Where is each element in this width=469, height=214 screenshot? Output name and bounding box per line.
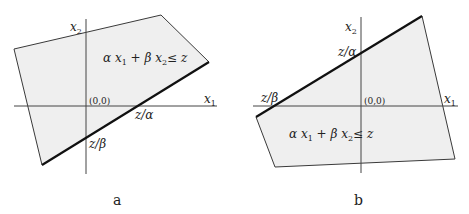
y-intercept-label-b: z/α	[337, 45, 356, 59]
panel-caption-a: a	[113, 192, 121, 208]
feasible-region-a	[14, 15, 209, 165]
panel-a: x2 x1 (0,0) z/α z/β α x1 + β x2≤ z a	[14, 15, 217, 208]
feasible-region-b	[256, 16, 455, 167]
x2-axis-label-a: x2	[70, 20, 82, 36]
x2-axis-label-b: x2	[345, 20, 357, 36]
inequality-label-b: α x1 + β x2≤ z	[289, 127, 374, 143]
panel-caption-b: b	[354, 192, 363, 208]
origin-label-b: (0,0)	[364, 96, 385, 106]
y-intercept-label-a: z/β	[88, 137, 106, 151]
x1-axis-label-b: x1	[444, 92, 456, 108]
x1-axis-label-a: x1	[204, 92, 216, 108]
panel-b: x2 x1 (0,0) z/α z/β α x1 + β x2≤ z b	[253, 16, 458, 208]
figure-canvas: x2 x1 (0,0) z/α z/β α x1 + β x2≤ z a x2 …	[0, 0, 469, 214]
origin-label-a: (0,0)	[89, 96, 110, 106]
inequality-label-a: α x1 + β x2≤ z	[103, 51, 188, 67]
x-intercept-label-a: z/α	[134, 108, 153, 122]
x-intercept-label-b: z/β	[260, 91, 278, 105]
